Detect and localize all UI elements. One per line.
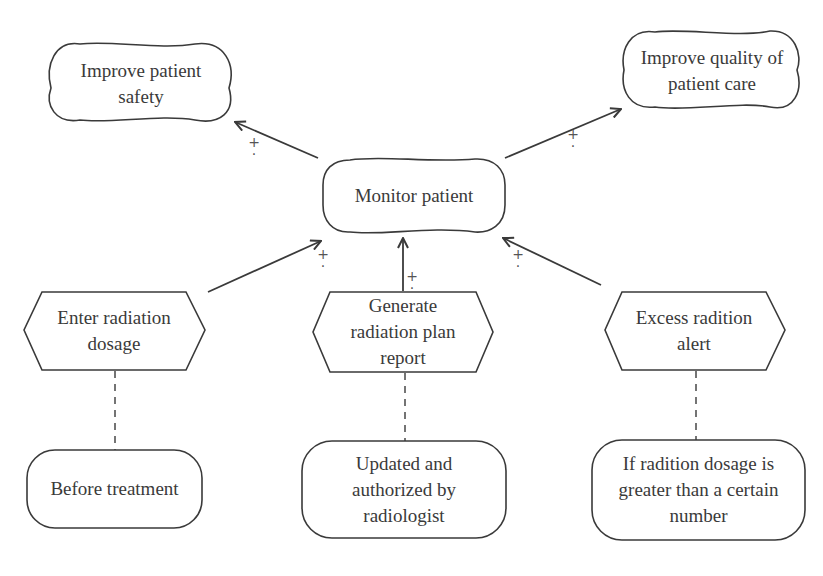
softgoal-improve-safety-label: Improve patient safety	[52, 48, 230, 120]
contribution-mark-generate-report: +·	[406, 270, 418, 294]
note-updated-authorized-label: Updated and authorized by radiologist	[302, 441, 506, 538]
contribution-mark-excess-alert: +·	[512, 248, 524, 272]
note-before-treatment-label: Before treatment	[27, 450, 202, 528]
task-generate-report-label: Generate radiation plan report	[330, 292, 476, 372]
contribution-mark-safety: +·	[248, 136, 260, 160]
link-enter-dosage-to-monitor	[208, 241, 321, 292]
contribution-mark-enter-dosage: +·	[317, 248, 329, 272]
softgoal-improve-quality-label: Improve quality of patient care	[624, 35, 800, 107]
link-monitor-to-quality	[505, 109, 621, 158]
note-if-greater-label: If radition dosage is greater than a cer…	[592, 440, 805, 540]
task-enter-dosage-label: Enter radiation dosage	[42, 292, 186, 370]
contribution-mark-quality: +·	[567, 128, 579, 152]
goal-monitor-patient-label: Monitor patient	[323, 160, 505, 232]
task-excess-alert-label: Excess radition alert	[622, 292, 766, 370]
goal-diagram: Improve patient safety Improve quality o…	[0, 0, 823, 576]
